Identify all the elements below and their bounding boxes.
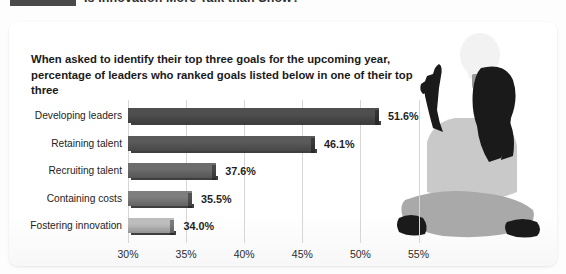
bar-end-cap (375, 110, 379, 125)
category-label: Retaining talent (10, 138, 122, 149)
bar-fill (128, 191, 192, 206)
bar-value-label: 51.6% (388, 110, 419, 122)
bar-end-cap (170, 220, 174, 235)
header-rule (10, 0, 76, 6)
bar-value-label: 37.6% (225, 165, 256, 177)
screenshot-root: Is Innovation More Talk than Show? When … (0, 0, 566, 274)
bar-fill (128, 163, 216, 178)
bar-value-label: 34.0% (183, 220, 214, 232)
category-label: Developing leaders (10, 110, 122, 121)
bar (128, 218, 174, 235)
bar-value-label: 46.1% (324, 138, 355, 150)
bar (128, 163, 216, 180)
x-axis-tick-label: 40% (234, 248, 255, 260)
x-axis-tick-label: 30% (117, 248, 138, 260)
plot-area: 30%35%40%45%50%55%Developing leaders51.6… (9, 22, 557, 266)
category-label: Containing costs (10, 193, 122, 204)
bar-end-cap (311, 138, 315, 153)
category-label: Recruiting talent (10, 165, 122, 176)
bar-value-label: 35.5% (201, 193, 232, 205)
chart-card: When asked to identify their top three g… (9, 22, 557, 266)
bar-fill (128, 218, 174, 233)
bar (128, 108, 379, 125)
x-axis-tick-label: 55% (408, 248, 429, 260)
bar (128, 136, 315, 153)
page-title: Is Innovation More Talk than Show? (84, 0, 300, 5)
x-axis-tick-label: 35% (176, 248, 197, 260)
bar-end-cap (212, 165, 216, 180)
bar-fill (128, 108, 379, 123)
bar-end-cap (188, 193, 192, 208)
x-axis-tick-label: 50% (350, 248, 371, 260)
bar (128, 191, 192, 208)
x-axis-tick-label: 45% (292, 248, 313, 260)
category-label: Fostering innovation (10, 220, 122, 231)
bar-fill (128, 136, 315, 151)
